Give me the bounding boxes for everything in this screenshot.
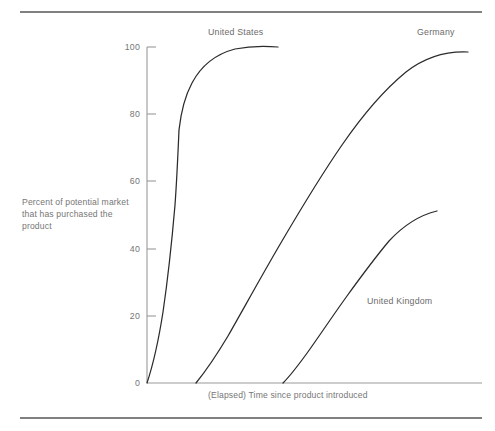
series-line-germany: [196, 52, 468, 383]
series-label-united-kingdom: United Kingdom: [367, 296, 432, 306]
series-line-united-states: [147, 46, 278, 383]
y-tick-label-40: 40: [114, 244, 140, 254]
chart-figure: 100 80 60 40 20 0 Percent of potential m…: [0, 0, 495, 431]
series-label-united-states: United States: [208, 27, 263, 37]
y-tick-label-0: 0: [114, 378, 140, 388]
y-axis-title: Percent of potential market that has pur…: [22, 196, 132, 233]
y-tick-label-100: 100: [114, 42, 140, 52]
y-tick-label-20: 20: [114, 311, 140, 321]
y-tick-label-80: 80: [114, 109, 140, 119]
x-axis-title: (Elapsed) Time since product introduced: [208, 389, 368, 401]
y-axis-ticks: [147, 47, 156, 316]
series-label-germany: Germany: [417, 27, 455, 37]
y-tick-label-60: 60: [114, 176, 140, 186]
